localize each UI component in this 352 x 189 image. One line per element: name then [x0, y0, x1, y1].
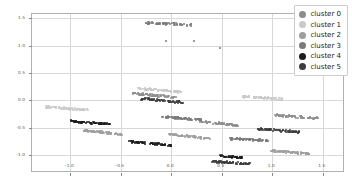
legend-marker-icon: [299, 32, 306, 39]
data-point: [252, 140, 254, 142]
data-point: [134, 142, 136, 144]
data-point: [170, 91, 172, 93]
legend-marker-icon: [299, 53, 306, 60]
data-point: [232, 161, 234, 163]
data-point: [239, 139, 241, 141]
legend-item-cluster-2[interactable]: cluster 2: [299, 31, 342, 39]
data-point: [169, 23, 171, 25]
data-point: [157, 143, 159, 145]
data-point: [241, 156, 243, 158]
legend-label: cluster 2: [311, 31, 342, 39]
legend-item-cluster-5[interactable]: cluster 5: [299, 63, 342, 71]
x-tick-label: 1.0: [268, 163, 275, 168]
x-tick: [323, 173, 324, 176]
data-point: [311, 117, 313, 119]
x-tick: [222, 173, 223, 176]
x-tick-label: 0.5: [217, 163, 224, 168]
data-point: [175, 96, 177, 98]
x-tick-label: 1.5: [318, 163, 325, 168]
data-point: [153, 95, 155, 97]
data-point: [258, 140, 260, 142]
data-point: [281, 115, 283, 117]
data-point: [173, 24, 175, 26]
legend-item-cluster-0[interactable]: cluster 0: [299, 10, 342, 18]
data-point: [110, 133, 112, 135]
legend-marker-icon: [299, 11, 306, 18]
data-point: [199, 121, 201, 123]
data-point: [286, 115, 288, 117]
data-point: [64, 108, 66, 110]
data-point: [156, 23, 158, 25]
legend-item-cluster-4[interactable]: cluster 4: [299, 52, 342, 60]
data-point: [247, 163, 249, 165]
data-point: [275, 97, 277, 99]
legend-label: cluster 3: [311, 42, 342, 50]
legend[interactable]: cluster 0cluster 1cluster 2cluster 3clus…: [294, 5, 349, 76]
legend-label: cluster 4: [311, 52, 342, 60]
x-tick-label: -0.5: [116, 163, 125, 168]
data-point: [177, 116, 179, 118]
data-point: [316, 117, 318, 119]
data-point: [198, 118, 200, 120]
data-point: [87, 109, 89, 111]
data-point: [148, 21, 150, 23]
data-point: [281, 151, 283, 153]
legend-label: cluster 0: [311, 10, 342, 18]
data-point: [248, 96, 250, 98]
data-point: [236, 137, 238, 139]
data-point: [298, 131, 300, 133]
legend-item-cluster-3[interactable]: cluster 3: [299, 42, 342, 50]
legend-marker-icon: [299, 21, 306, 28]
data-point: [307, 152, 309, 154]
data-point: [236, 163, 238, 165]
legend-label: cluster 1: [311, 21, 342, 29]
data-point: [181, 102, 183, 104]
data-point: [143, 142, 145, 144]
x-tick-label: 0.0: [167, 163, 174, 168]
data-point: [83, 121, 85, 123]
x-tick-label: -1.0: [65, 163, 74, 168]
data-point: [236, 156, 238, 158]
data-point: [172, 97, 174, 99]
data-point: [54, 106, 56, 108]
data-point: [294, 151, 296, 153]
figure: -1.0-0.50.00.51.01.5-1.0-0.50.00.51.01.5…: [0, 0, 352, 189]
data-point: [164, 143, 166, 145]
data-point: [162, 116, 164, 118]
data-point: [106, 133, 108, 135]
x-tick: [272, 173, 273, 176]
data-point: [86, 121, 88, 123]
data-point: [189, 119, 191, 121]
data-point: [285, 131, 287, 133]
data-point: [297, 153, 299, 155]
data-point: [160, 99, 162, 101]
y-tick-label: 1.0: [18, 42, 25, 47]
data-point: [297, 117, 299, 119]
data-point: [48, 106, 50, 108]
data-point: [230, 139, 232, 141]
data-point: [46, 107, 48, 109]
data-point: [262, 97, 264, 99]
data-point: [229, 123, 231, 125]
data-point: [50, 107, 52, 109]
data-point: [313, 118, 315, 120]
data-point: [258, 129, 260, 131]
data-point: [278, 115, 280, 117]
data-point: [231, 123, 233, 125]
data-point: [166, 89, 168, 91]
data-point: [268, 97, 270, 99]
data-point: [220, 155, 222, 157]
data-point: [237, 125, 239, 127]
data-point: [239, 163, 241, 165]
x-tick: [121, 173, 122, 176]
legend-item-cluster-1[interactable]: cluster 1: [299, 21, 342, 29]
y-tick-label: 1.5: [18, 15, 25, 20]
data-point: [202, 121, 204, 123]
data-point: [145, 93, 147, 95]
data-point: [177, 92, 179, 94]
data-point: [224, 156, 226, 158]
x-tick: [70, 173, 71, 176]
y-tick-label: -0.5: [16, 124, 25, 129]
y-tick-label: 0.5: [18, 70, 25, 75]
data-point: [279, 130, 281, 132]
